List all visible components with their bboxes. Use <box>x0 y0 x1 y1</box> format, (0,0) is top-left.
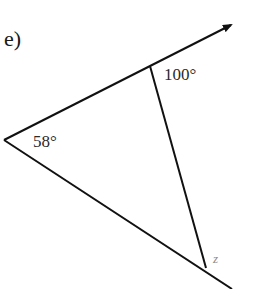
angle-label-z: z <box>213 252 218 265</box>
upper-ray <box>4 25 231 140</box>
lower-line <box>4 140 232 289</box>
triangle-diagram: e) 100° 58° z <box>0 0 253 289</box>
transversal-segment <box>150 66 206 268</box>
angle-label-58: 58° <box>33 133 57 150</box>
part-label: e) <box>4 28 21 50</box>
angle-label-100: 100° <box>164 66 196 83</box>
